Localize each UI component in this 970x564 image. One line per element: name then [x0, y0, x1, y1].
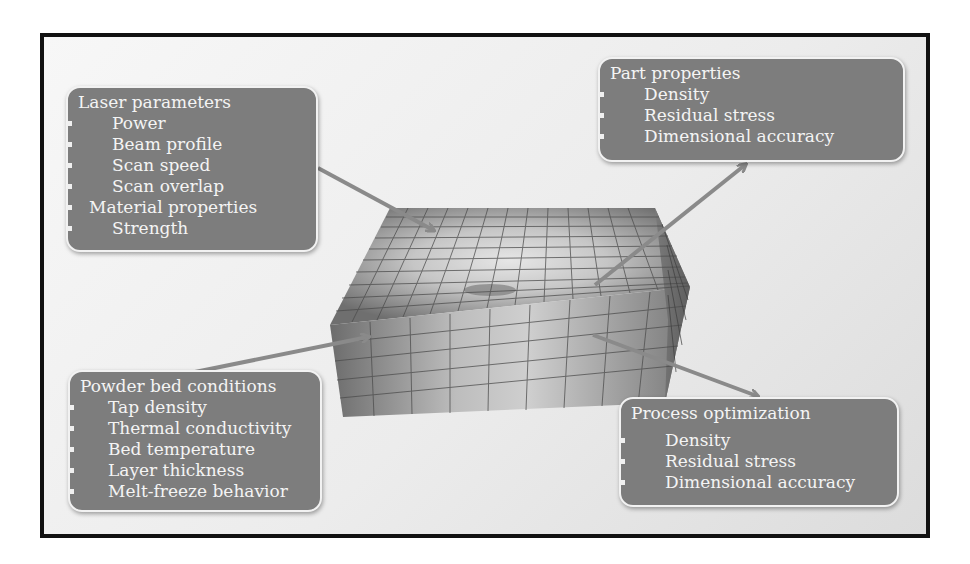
box-title: Process optimization: [631, 403, 887, 424]
list-item: Thermal conductivity: [80, 418, 310, 439]
laser-parameters-box: Laser parameters Power Beam profile Scan…: [66, 86, 318, 252]
list-item: Bed temperature: [80, 439, 310, 460]
list-item: Melt-freeze behavior: [80, 481, 310, 502]
process-optimization-list: Density Residual stress Dimensional accu…: [631, 430, 887, 493]
part-properties-box: Part properties Density Residual stress …: [598, 57, 905, 162]
process-optimization-box: Process optimization Density Residual st…: [619, 397, 899, 507]
powder-bed-conditions-box: Powder bed conditions Tap density Therma…: [68, 370, 322, 512]
list-item: Scan speed: [78, 155, 306, 176]
list-item: Power: [78, 113, 306, 134]
list-item: Scan overlap: [78, 176, 306, 197]
list-item: Strength: [78, 218, 306, 239]
list-item: Residual stress: [631, 451, 887, 472]
list-item: Layer thickness: [80, 460, 310, 481]
list-item: Tap density: [80, 397, 310, 418]
list-item: Density: [610, 84, 893, 105]
list-item: Beam profile: [78, 134, 306, 155]
list-item: Dimensional accuracy: [610, 126, 893, 147]
powder-bed-conditions-list: Tap density Thermal conductivity Bed tem…: [80, 397, 310, 502]
box-title: Part properties: [610, 63, 893, 84]
box-title: Laser parameters: [78, 92, 306, 113]
box-title: Powder bed conditions: [80, 376, 310, 397]
list-item: Residual stress: [610, 105, 893, 126]
list-item: Density: [631, 430, 887, 451]
part-properties-list: Density Residual stress Dimensional accu…: [610, 84, 893, 147]
list-item: Material properties: [78, 197, 306, 218]
list-item: Dimensional accuracy: [631, 472, 887, 493]
laser-parameters-list: Power Beam profile Scan speed Scan overl…: [78, 113, 306, 239]
arrow-laser-to-block: [318, 168, 433, 230]
